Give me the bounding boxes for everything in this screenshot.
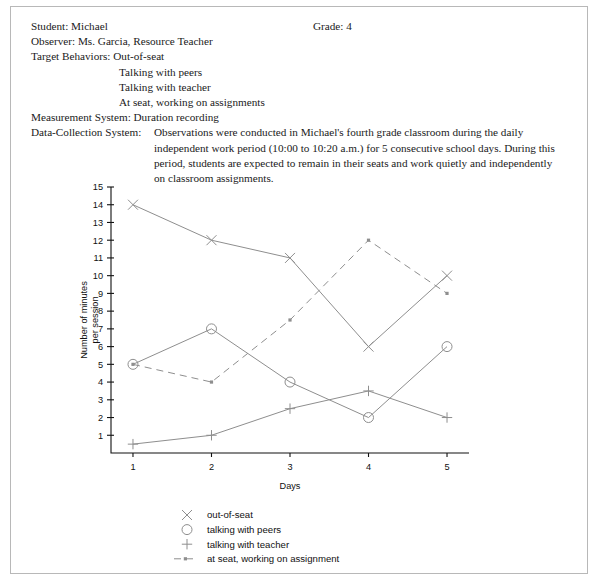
y-tick-label: 2 [98,413,103,423]
x-tick-label: 2 [209,462,214,472]
y-tick-label: 1 [98,431,103,441]
series-at-seat-working-on-assignment [131,239,448,384]
marker-plus [285,403,295,413]
legend-item: talking with teacher [182,539,290,550]
marker-plus [442,412,452,422]
report-page: Student: Michael Grade: 4 Observer: Ms. … [10,6,588,574]
legend-item: out-of-seat [182,509,253,520]
marker-dot [210,380,213,383]
y-tick-label: 11 [93,253,103,263]
marker-plus [128,439,138,449]
legend-label: talking with teacher [207,539,290,550]
legend-label: out-of-seat [207,509,253,520]
series-path [133,240,447,382]
marker-x [128,200,138,210]
y-tick-label: 15 [93,182,103,192]
y-tick-label: 13 [93,218,103,228]
x-tick-label: 1 [130,462,135,472]
legend-label: talking with peers [207,524,281,535]
legend-dot-icon [184,557,187,560]
y-tick-label: 3 [98,395,103,405]
marker-dot [288,318,291,321]
y-tick-label: 12 [93,236,103,246]
x-tick-label: 3 [287,462,292,472]
marker-x [206,235,216,245]
legend-item: talking with peers [182,524,281,535]
marker-dot [131,363,134,366]
marker-x [364,342,374,352]
legend-item: at seat, working on assignment [174,553,340,564]
marker-x [285,253,295,263]
series-talking-with-teacher [128,386,452,450]
marker-plus [363,386,373,396]
marker-circle [182,525,192,535]
y-tick-label: 5 [98,360,103,370]
x-tick-label: 5 [444,462,449,472]
marker-plus [182,539,192,549]
marker-dot [445,292,448,295]
y-tick-label: 4 [98,377,103,387]
x-axis-title: Days [280,481,301,491]
series-path [133,391,447,444]
series-path [133,205,447,347]
series-out-of-seat [128,200,452,352]
y-axis-title: Number of minutes [79,281,89,359]
x-tick-label: 4 [366,462,371,472]
behavior-line-chart: 12345678910111213141512345DaysNumber of … [11,7,589,575]
marker-x [442,271,452,281]
marker-dot [367,239,370,242]
y-axis-title: per session [90,297,100,344]
marker-x [182,510,192,520]
legend-label: at seat, working on assignment [207,553,340,564]
marker-plus [206,430,216,440]
y-tick-label: 14 [93,200,103,210]
y-tick-label: 10 [93,271,103,281]
